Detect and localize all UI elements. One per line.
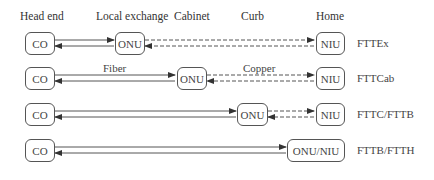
row-label-fttc-fttb: FTTC/FTTB (357, 108, 414, 120)
co-node: CO (25, 139, 55, 162)
header-home: Home (316, 10, 344, 22)
header-cabinet: Cabinet (174, 10, 210, 22)
header-curb: Curb (241, 10, 264, 22)
header-local-exchange: Local exchange (96, 10, 168, 22)
onu-node: ONU (115, 32, 145, 55)
copper-label: Copper (243, 62, 275, 74)
co-node: CO (25, 67, 55, 90)
row-label-fttcab: FTTCab (357, 72, 394, 84)
onu-node: ONU (237, 103, 268, 126)
onu-node: ONU (177, 67, 207, 90)
niu-node: NIU (316, 103, 345, 126)
fiber-label: Fiber (103, 62, 126, 74)
niu-node: NIU (316, 67, 345, 90)
co-node: CO (25, 32, 55, 55)
row-label-fttb-ftth: FTTB/FTTH (357, 144, 414, 156)
header-head-end: Head end (20, 10, 64, 22)
niu-node: NIU (316, 32, 345, 55)
row-label-fttex: FTTEx (357, 37, 389, 49)
onu-niu-node: ONU/NIU (287, 139, 345, 162)
co-node: CO (25, 103, 55, 126)
